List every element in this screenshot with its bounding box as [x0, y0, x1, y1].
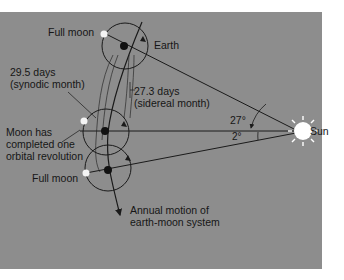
label-full-moon-bottom: Full moon: [32, 173, 78, 184]
angle-arc-27: [251, 104, 266, 128]
sidereal-span-arc: [124, 55, 129, 118]
label-completed-one: completed one: [6, 139, 75, 150]
earth-middle: [101, 127, 109, 135]
label-orbital-revolution: orbital revolution: [6, 151, 83, 162]
label-annual-motion: Annual motion of: [130, 205, 209, 216]
orbit-arrow-middle: [121, 121, 127, 127]
label-synodic-days: 29.5 days: [10, 67, 56, 78]
moon-top: [101, 31, 108, 38]
orbit-arrow-top: [140, 36, 146, 42]
moon-middle: [81, 118, 88, 125]
label-full-moon-top: Full moon: [48, 27, 94, 38]
label-sun: Sun: [310, 126, 329, 137]
label-sidereal-month: (sidereal month): [134, 98, 210, 109]
label-sidereal-days: 27.3 days: [134, 86, 180, 97]
label-synodic-month: (synodic month): [10, 79, 85, 90]
orbit-arrow-bottom: [125, 155, 131, 161]
label-angle-2: 2°: [232, 131, 242, 142]
sun-line-bottom: [86, 133, 296, 173]
moon-bottom: [83, 170, 90, 177]
earth-top: [120, 42, 128, 50]
label-angle-27: 27°: [230, 115, 246, 126]
earth-bottom: [104, 166, 112, 174]
label-earth-moon-system: earth-moon system: [130, 217, 220, 228]
label-earth: Earth: [154, 40, 179, 51]
synodic-leader: [68, 92, 96, 118]
label-moon-has: Moon has: [6, 127, 52, 138]
